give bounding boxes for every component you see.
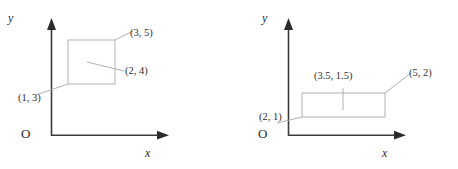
x-axis-arrowhead — [394, 131, 406, 140]
square-shape — [68, 40, 115, 84]
y-axis-label: y — [262, 12, 267, 24]
panel-right-graphics — [229, 0, 458, 169]
y-axis-arrowhead — [47, 18, 56, 30]
coordinate-panel-left: y x O (3, 5) (2, 4) (1, 3) — [0, 0, 229, 169]
point-label-top-right: (5, 2) — [409, 68, 432, 79]
y-axis-arrowhead — [284, 18, 293, 30]
point-label-bottom-left: (1, 3) — [18, 93, 41, 104]
point-label-center: (3.5, 1.5) — [314, 71, 353, 82]
point-label-center: (2, 4) — [125, 66, 148, 77]
leader-line-point-2-4 — [87, 62, 124, 71]
y-axis-label: y — [8, 12, 13, 24]
panel-left-graphics — [0, 0, 229, 169]
coordinate-panel-right: y x O (3.5, 1.5) (5, 2) (2, 1) — [229, 0, 458, 169]
x-axis-label: x — [382, 147, 387, 159]
point-label-bottom-left: (2, 1) — [259, 112, 282, 123]
point-label-top-right: (3, 5) — [130, 28, 153, 39]
figure-root: y x O (3, 5) (2, 4) (1, 3) y x O (3.5, 1… — [0, 0, 458, 169]
origin-label: O — [21, 127, 30, 140]
x-axis-label: x — [145, 147, 150, 159]
origin-label: O — [258, 127, 267, 140]
x-axis-arrowhead — [157, 131, 169, 140]
leader-line-point-5-2 — [385, 73, 411, 93]
